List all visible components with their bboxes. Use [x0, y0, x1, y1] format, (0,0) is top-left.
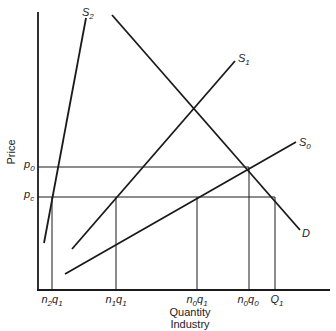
- label-S0: S0: [299, 136, 311, 151]
- label-Q1: Q1: [270, 293, 283, 308]
- y-axis-label: Price: [5, 139, 17, 164]
- supply-demand-diagram: S2 S1 S0 D p0 pc Price n2q1 n1q1 n0q1 n0…: [0, 0, 336, 331]
- supply-curve-S2: [44, 18, 86, 243]
- label-S1: S1: [238, 52, 250, 67]
- label-S2: S2: [82, 6, 94, 21]
- label-p0: p0: [23, 158, 35, 173]
- supply-curve-S1: [72, 61, 235, 249]
- demand-curve-D: [112, 15, 300, 230]
- x-axis-label-industry: Industry: [170, 318, 210, 330]
- label-n2q1: n2q1: [41, 293, 62, 308]
- label-n0q0: n0q0: [237, 293, 259, 308]
- x-axis-label-quantity: Quantity: [170, 306, 211, 318]
- label-pc: pc: [23, 188, 34, 203]
- supply-curve-S0: [65, 142, 296, 274]
- label-n1q1: n1q1: [105, 293, 126, 308]
- label-D: D: [302, 227, 310, 239]
